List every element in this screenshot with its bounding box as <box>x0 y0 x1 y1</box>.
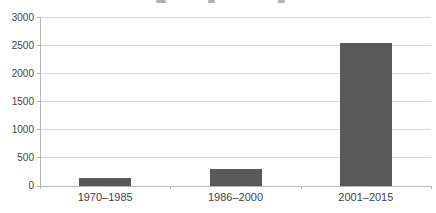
y-axis-tick <box>37 73 41 74</box>
gridline <box>40 17 431 18</box>
y-axis-tick <box>37 101 41 102</box>
y-axis-tick-label: 1500 <box>0 96 34 107</box>
y-axis-tick <box>37 17 41 18</box>
x-axis-tick <box>301 186 302 189</box>
y-axis-tick-label: 1000 <box>0 124 34 135</box>
x-axis-category-label: 1970–1985 <box>40 191 170 203</box>
x-axis-category-label: 2001–2015 <box>301 191 431 203</box>
x-axis-tick <box>170 186 171 189</box>
y-axis-tick <box>37 157 41 158</box>
y-axis-tick-label: 500 <box>0 152 34 163</box>
x-axis-line <box>40 186 431 187</box>
plot-area <box>40 18 431 186</box>
y-axis-tick <box>37 45 41 46</box>
y-axis-tick-label: 3000 <box>0 12 34 23</box>
x-axis-tick <box>431 186 432 189</box>
y-axis-tick-label: 0 <box>0 180 34 191</box>
bar-chart: 050010001500200025003000 1970–19851986–2… <box>0 0 436 213</box>
x-axis-category-label: 1986–2000 <box>171 191 301 203</box>
x-axis-tick <box>40 186 41 189</box>
clipped-title-fragment <box>278 0 285 3</box>
clipped-title-fragment <box>208 0 215 3</box>
bar <box>210 169 262 186</box>
bar <box>79 178 131 186</box>
y-axis-tick-label: 2500 <box>0 40 34 51</box>
y-axis-tick-label: 2000 <box>0 68 34 79</box>
bar <box>340 43 392 186</box>
y-axis-tick <box>37 129 41 130</box>
clipped-title-fragment <box>156 0 166 3</box>
